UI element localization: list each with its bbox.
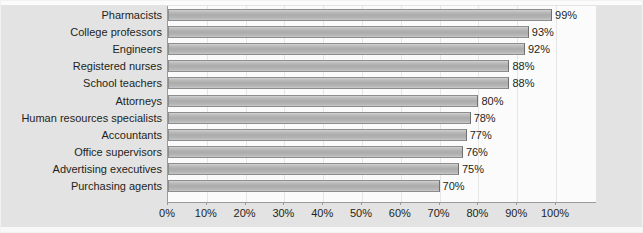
bar[interactable] [168, 95, 478, 107]
bar-value-label: 77% [470, 129, 492, 141]
bar[interactable] [168, 112, 471, 124]
category-label: Registered nurses [1, 60, 162, 72]
category-label: Human resources specialists [1, 112, 162, 124]
bar-value-label: 92% [528, 43, 550, 55]
bar[interactable] [168, 26, 529, 38]
bar[interactable] [168, 9, 552, 21]
x-axis-tick [439, 202, 440, 205]
bar-value-label: 75% [462, 163, 484, 175]
x-axis-tick [245, 202, 246, 205]
gridline [556, 6, 557, 202]
category-label: Office supervisors [1, 146, 162, 158]
x-axis-tick [516, 202, 517, 205]
bar[interactable] [168, 163, 459, 175]
bar-value-label: 93% [532, 26, 554, 38]
category-label: Advertising executives [1, 163, 162, 175]
x-axis-tick [477, 202, 478, 205]
x-axis-tick [361, 202, 362, 205]
category-label: Engineers [1, 43, 162, 55]
bar-value-label: 70% [443, 180, 465, 192]
x-axis-tick [400, 202, 401, 205]
category-label: Purchasing agents [1, 180, 162, 192]
category-label: Accountants [1, 129, 162, 141]
bar[interactable] [168, 180, 440, 192]
bar-value-label: 78% [474, 112, 496, 124]
x-axis-tick [322, 202, 323, 205]
bar[interactable] [168, 146, 463, 158]
bar-value-label: 76% [466, 146, 488, 158]
category-label: School teachers [1, 77, 162, 89]
chart-frame: PharmacistsCollege professorsEngineersRe… [0, 0, 643, 233]
category-label: College professors [1, 26, 162, 38]
x-axis-tick [283, 202, 284, 205]
bar-value-label: 88% [512, 77, 534, 89]
bar[interactable] [168, 43, 525, 55]
category-label: Pharmacists [1, 9, 162, 21]
bar-value-label: 88% [512, 60, 534, 72]
bar-value-label: 99% [555, 9, 577, 21]
bar[interactable] [168, 60, 509, 72]
category-label: Attorneys [1, 95, 162, 107]
x-axis-tick [555, 202, 556, 205]
bar[interactable] [168, 129, 467, 141]
x-axis-line [167, 202, 596, 203]
x-axis-tick [206, 202, 207, 205]
bar[interactable] [168, 77, 509, 89]
x-axis-tick-label: 100% [530, 207, 580, 220]
x-axis-tick [167, 202, 168, 205]
bar-value-label: 80% [481, 95, 503, 107]
